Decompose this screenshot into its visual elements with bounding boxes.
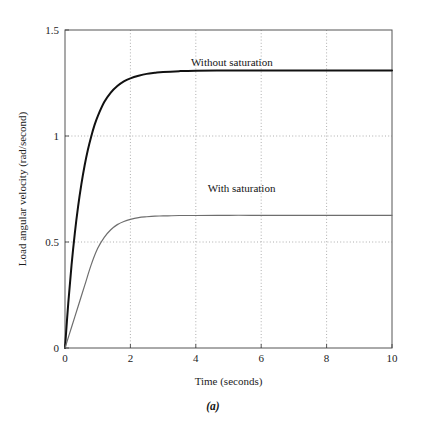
figure-caption: (a): [206, 400, 220, 413]
y-tick-label: 0.5: [45, 236, 59, 248]
x-tick-label: 0: [62, 352, 68, 364]
figure-container: 0246810 00.511.5 Without saturation With…: [0, 0, 426, 425]
y-tick-label: 1.5: [45, 24, 59, 36]
x-axis-title: Time (seconds): [195, 375, 263, 388]
x-tick-label: 2: [128, 352, 134, 364]
series-label-without-saturation: Without saturation: [191, 56, 273, 68]
chart-canvas: 0246810 00.511.5 Without saturation With…: [0, 0, 426, 425]
x-tick-label: 10: [387, 352, 399, 364]
y-axis-title: Load angular velocity (rad/second): [16, 112, 29, 267]
series-label-with-saturation: With saturation: [208, 182, 276, 194]
x-tick-label: 6: [258, 352, 264, 364]
y-tick-label: 0: [54, 342, 60, 354]
x-tick-label: 4: [193, 352, 199, 364]
y-tick-label: 1: [54, 130, 60, 142]
x-tick-label: 8: [324, 352, 330, 364]
